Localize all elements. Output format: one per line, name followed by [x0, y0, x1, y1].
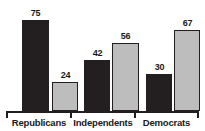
bar-democrats-light: [174, 30, 200, 111]
bar-independents-dark: [84, 60, 110, 111]
bar-value-label-56: 56: [110, 31, 141, 41]
category-axis-labels: Republicans Independents Democrats: [0, 114, 205, 131]
bar-independents-light: [112, 43, 139, 111]
bar-democrats-dark: [146, 74, 172, 111]
category-label-democrats: Democrats: [136, 117, 197, 128]
bar-value-label-67: 67: [172, 18, 203, 28]
category-label-independents: Independents: [71, 117, 135, 128]
bar-republicans-light: [52, 82, 78, 111]
bar-republicans-dark: [22, 20, 49, 111]
plot-area: 75 24 42 56 30 67: [0, 0, 205, 111]
bar-value-label-42: 42: [82, 48, 113, 58]
bar-value-label-24: 24: [50, 70, 81, 80]
bar-value-label-30: 30: [144, 62, 175, 72]
x-axis-baseline: [6, 111, 199, 113]
category-label-republicans: Republicans: [8, 117, 70, 128]
bar-chart: 75 24 42 56 30 67 Republicans Independen…: [0, 0, 205, 131]
bar-value-label-75: 75: [20, 8, 51, 18]
